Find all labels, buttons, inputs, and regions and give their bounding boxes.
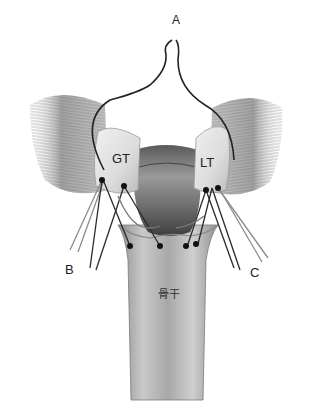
- label-greater-tuberosity: GT: [112, 152, 130, 165]
- humeral-head: [134, 145, 201, 236]
- label-C: C: [250, 266, 259, 279]
- illustration-svg: [0, 0, 312, 419]
- label-B: B: [65, 263, 74, 276]
- diagram-canvas: A GT LT B C 骨干: [0, 0, 312, 419]
- bone-shaft: [118, 225, 218, 400]
- label-bone-shaft: 骨干: [158, 289, 180, 300]
- label-A: A: [172, 14, 180, 26]
- label-lesser-tuberosity: LT: [200, 156, 214, 169]
